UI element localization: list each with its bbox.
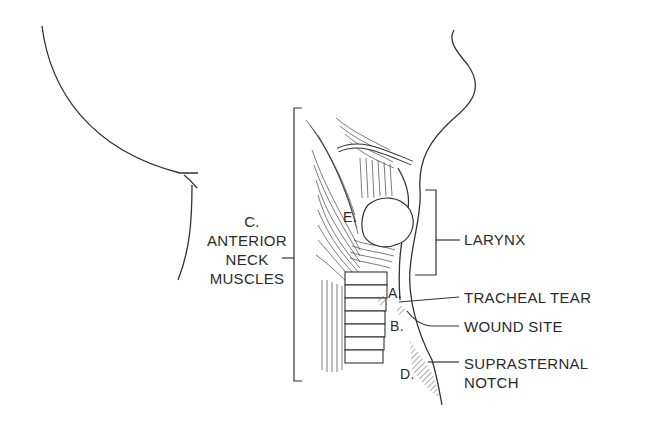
- letter-a: A.: [388, 285, 402, 302]
- muscles-bracket: [294, 108, 302, 381]
- muscles-letter: C.: [212, 213, 292, 230]
- chin-curl: [184, 175, 197, 188]
- wound-site-label: WOUND SITE: [464, 318, 563, 335]
- trachea: [345, 272, 387, 363]
- wound-mark: [397, 306, 405, 315]
- thyroid-cartilage: [362, 198, 413, 247]
- larynx-label: LARYNX: [464, 231, 526, 248]
- suprasternal-label-line2: NOTCH: [464, 374, 519, 391]
- larynx-bracket: [415, 190, 436, 275]
- neck-anatomy-diagram: C. ANTERIOR NECK MUSCLES LARYNX TRACHEAL…: [0, 0, 662, 421]
- suprasternal-label-line1: SUPRASTERNAL: [464, 355, 588, 372]
- tracheal-tear-leader: [399, 297, 459, 302]
- face-profile: [410, 30, 476, 405]
- letter-b: B.: [390, 318, 404, 335]
- letter-e: E.: [343, 209, 357, 226]
- muscles-label-line3: MUSCLES: [202, 270, 292, 287]
- tracheal-tear-mark: [378, 296, 387, 305]
- muscles-label-line1: ANTERIOR: [202, 232, 292, 249]
- neck-left-outline: [178, 185, 192, 280]
- letter-d: D.: [400, 366, 415, 383]
- head-outline: [42, 26, 198, 173]
- tracheal-tear-label: TRACHEAL TEAR: [464, 289, 591, 306]
- muscles-label-line2: NECK: [202, 251, 292, 268]
